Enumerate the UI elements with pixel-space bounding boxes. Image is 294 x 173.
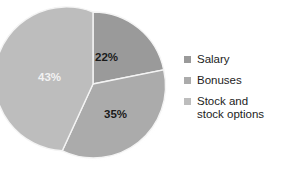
legend-item-stock-and-stock-options[interactable]: Stock and stock options [184,95,292,121]
pie-chart-figure: 22% 35% 43% Salary Bonuses Stock and sto… [0,0,294,173]
legend-swatch-icon-salary [184,56,191,63]
pie-chart-plot-area: 22% 35% 43% [0,0,182,173]
chart-legend: Salary Bonuses Stock and stock options [184,53,292,121]
pie-value-label-salary: 22% [95,52,118,64]
pie-chart-svg [0,0,182,173]
legend-swatch-icon-stock-and-stock-options [184,98,191,105]
pie-value-label-bonuses: 35% [104,109,127,121]
legend-item-bonuses[interactable]: Bonuses [184,74,292,87]
legend-label-stock-and-stock-options: Stock and stock options [197,95,264,121]
legend-item-salary[interactable]: Salary [184,53,292,66]
legend-swatch-icon-bonuses [184,77,191,84]
pie-value-label-stock-and-stock-options: 43% [38,72,61,84]
legend-label-bonuses: Bonuses [197,74,242,87]
legend-label-salary: Salary [197,53,230,66]
